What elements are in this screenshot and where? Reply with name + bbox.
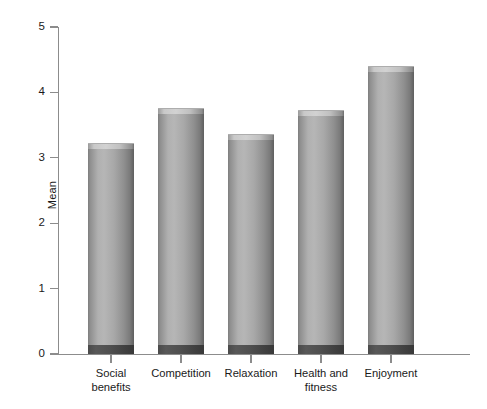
y-tick-label: 1 (39, 283, 45, 295)
x-tick-label-line: Enjoyment (348, 366, 434, 380)
x-tick-label: Enjoyment (348, 366, 434, 380)
y-tick-5: 5 (50, 26, 58, 27)
y-tick-4: 4 (50, 92, 58, 93)
x-tick (180, 355, 181, 363)
y-axis-title: Mean (17, 160, 87, 230)
y-tick-label: 0 (39, 348, 45, 360)
y-tick-label: 5 (39, 21, 45, 33)
bar-base-shadow (88, 345, 134, 354)
bar-top-cap (298, 110, 344, 116)
x-axis-line (58, 354, 470, 355)
y-tick-label: 2 (39, 217, 45, 229)
bar-top-cap (228, 134, 274, 140)
x-tick (110, 355, 111, 363)
bar-chart: Mean 543210 SocialbenefitsCompetitionRel… (0, 0, 487, 409)
x-tick (320, 355, 321, 363)
bar-top-cap (158, 108, 204, 114)
bar-top-cap (368, 66, 414, 72)
y-tick-0: 0 (50, 353, 58, 354)
bar-base-shadow (158, 345, 204, 354)
y-tick-label: 3 (39, 152, 45, 164)
bar (158, 113, 204, 354)
bar-base-shadow (228, 345, 274, 354)
bar-base-shadow (298, 345, 344, 354)
bar (88, 148, 134, 354)
bar (298, 115, 344, 354)
bar (228, 139, 274, 354)
y-tick-label: 4 (39, 87, 45, 99)
y-tick-2: 2 (50, 223, 58, 224)
y-axis-line (58, 27, 59, 355)
x-tick (390, 355, 391, 363)
x-tick-label-line: fitness (278, 380, 364, 394)
bar (368, 71, 414, 354)
x-tick (250, 355, 251, 363)
bar-base-shadow (368, 345, 414, 354)
y-tick-3: 3 (50, 157, 58, 158)
x-tick-label-line: benefits (68, 380, 154, 394)
bar-top-cap (88, 143, 134, 149)
y-tick-1: 1 (50, 288, 58, 289)
